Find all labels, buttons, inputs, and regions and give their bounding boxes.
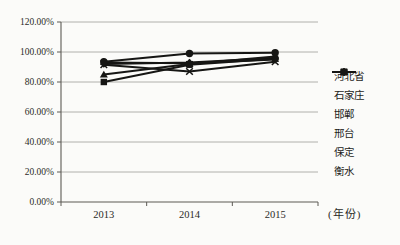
legend-item-hengshui: 衡水 xyxy=(331,161,364,180)
marker-shijiazhuang xyxy=(101,79,107,85)
legend-item-xingtai: 邢台 xyxy=(331,123,364,142)
legend-swatch-hengshui xyxy=(331,66,357,78)
y-tick-label: 20.00% xyxy=(25,167,54,177)
marker-hengshui xyxy=(100,58,107,65)
y-tick-label: 60.00% xyxy=(25,107,54,117)
x-tick-label: 2013 xyxy=(93,209,114,220)
legend-label-hengshui: 衡水 xyxy=(334,163,354,178)
y-tick-label: 40.00% xyxy=(25,137,54,147)
marker-hengshui-legend xyxy=(340,68,347,75)
line-chart: 0.00%20.00%40.00%60.00%80.00%100.00%120.… xyxy=(0,0,400,245)
legend-label-shijiazhuang: 石家庄 xyxy=(334,87,364,102)
legend-item-handan: 邯郸 xyxy=(331,104,364,123)
legend-label-handan: 邯郸 xyxy=(334,106,354,121)
y-tick-label: 100.00% xyxy=(20,47,54,57)
x-tick-label: 2014 xyxy=(179,209,201,220)
y-tick-label: 0.00% xyxy=(29,197,54,207)
legend-label-baoding: 保定 xyxy=(334,144,354,159)
x-axis-unit-label: (年份) xyxy=(328,205,361,221)
legend: 河北省石家庄邯郸邢台保定衡水 xyxy=(331,66,364,180)
legend-label-xingtai: 邢台 xyxy=(334,125,354,140)
y-tick-label: 80.00% xyxy=(25,77,54,87)
y-tick-label: 120.00% xyxy=(20,17,54,27)
x-tick-label: 2015 xyxy=(265,209,286,220)
legend-item-baoding: 保定 xyxy=(331,142,364,161)
marker-hengshui xyxy=(186,50,193,57)
legend-item-shijiazhuang: 石家庄 xyxy=(331,85,364,104)
marker-hengshui xyxy=(271,49,278,56)
